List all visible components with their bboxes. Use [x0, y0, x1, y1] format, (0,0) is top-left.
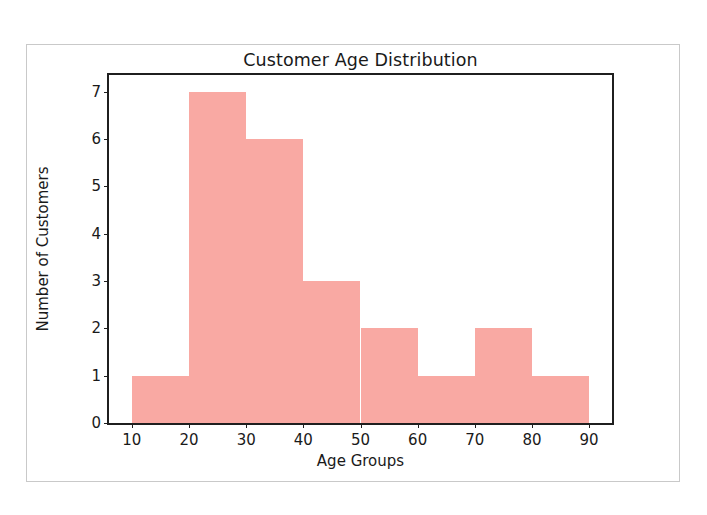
chart-figure: Customer Age Distribution 01234567102030…	[0, 0, 707, 515]
x-tick-mark	[361, 423, 362, 428]
x-tick-mark	[132, 423, 133, 428]
x-tick-mark	[532, 423, 533, 428]
y-tick-label: 1	[91, 367, 101, 385]
x-tick-label: 40	[294, 431, 313, 449]
x-tick-mark	[475, 423, 476, 428]
y-tick-label: 6	[91, 130, 101, 148]
chart-title: Customer Age Distribution	[107, 50, 614, 70]
x-tick-mark	[303, 423, 304, 428]
histogram-bar	[475, 328, 532, 423]
plot-surface	[109, 75, 612, 423]
y-tick-mark	[104, 423, 109, 424]
x-tick-label: 60	[408, 431, 427, 449]
x-tick-label: 10	[122, 431, 141, 449]
histogram-bar	[303, 281, 360, 423]
histogram-bar	[361, 328, 418, 423]
histogram-bar	[532, 376, 589, 423]
x-tick-label: 20	[179, 431, 198, 449]
x-tick-mark	[418, 423, 419, 428]
y-tick-label: 0	[91, 414, 101, 432]
x-tick-label: 80	[522, 431, 541, 449]
y-tick-label: 4	[91, 225, 101, 243]
y-axis-label: Number of Customers	[34, 167, 52, 332]
y-tick-label: 5	[91, 177, 101, 195]
plot-area: 01234567102030405060708090	[107, 73, 614, 425]
x-tick-label: 50	[351, 431, 370, 449]
y-tick-mark	[104, 234, 109, 235]
y-tick-label: 2	[91, 319, 101, 337]
histogram-bar	[189, 92, 246, 423]
y-tick-mark	[104, 92, 109, 93]
histogram-bar	[418, 376, 475, 423]
x-axis-label: Age Groups	[107, 452, 614, 470]
x-tick-label: 70	[465, 431, 484, 449]
y-tick-mark	[104, 281, 109, 282]
y-tick-mark	[104, 328, 109, 329]
x-tick-label: 30	[237, 431, 256, 449]
y-tick-mark	[104, 186, 109, 187]
y-tick-mark	[104, 376, 109, 377]
y-tick-mark	[104, 139, 109, 140]
histogram-bar	[132, 376, 189, 423]
y-tick-label: 3	[91, 272, 101, 290]
x-tick-label: 90	[580, 431, 599, 449]
x-tick-mark	[589, 423, 590, 428]
x-tick-mark	[246, 423, 247, 428]
x-tick-mark	[189, 423, 190, 428]
histogram-bar	[246, 139, 303, 423]
y-tick-label: 7	[91, 83, 101, 101]
